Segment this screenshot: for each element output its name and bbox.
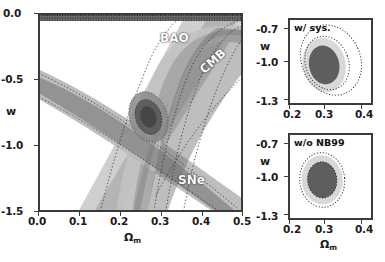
inset-bottom-ytickmark-1	[284, 176, 288, 177]
main-xtickmark-0	[38, 212, 39, 216]
annotation-bao: BAO	[160, 31, 189, 45]
inset-bottom-ytick-2: -1.3	[256, 210, 278, 222]
main-xtick-4: 0.4	[192, 215, 210, 227]
main-ytickmark-2	[34, 145, 38, 146]
annotation-sne: SNe	[178, 173, 205, 187]
main-xtickmark-5	[242, 212, 243, 216]
main-xtick-0: 0.0	[28, 215, 46, 227]
main-xtick-3: 0.3	[151, 215, 169, 227]
inset-with-systematics: w/ sys.	[288, 18, 373, 105]
main-omega-w-panel: BAO CMB SNe	[38, 13, 243, 212]
main-xtickmark-2	[120, 212, 121, 216]
inset-top-tag: w/ sys.	[294, 22, 331, 33]
inset-top-ytick-0: -0.7	[256, 23, 278, 35]
inset-top-ylabel: w	[260, 40, 270, 53]
main-xlabel-symbol: Ω	[124, 231, 133, 244]
inset-bottom-xtick-1: 0.3	[315, 223, 333, 235]
main-ytick-0: 0.0	[3, 7, 21, 19]
main-ytick-3: -1.5	[1, 205, 23, 217]
inset-top-ytickmark-0	[284, 28, 288, 29]
inset-bottom-tag: w/o NB99	[294, 137, 345, 148]
main-ylabel: w	[6, 105, 16, 118]
inset-bottom-xtickmark-0	[289, 220, 290, 224]
inset-top-ytickmark-2	[284, 99, 288, 100]
inset-bottom-ytick-1: -1.0	[256, 171, 278, 183]
inset-top-xtick-2: 0.4	[355, 108, 373, 120]
inset-bottom-xtickmark-2	[361, 220, 362, 224]
inset-top-xtick-0: 0.2	[283, 108, 301, 120]
main-xtickmark-1	[79, 212, 80, 216]
main-xtick-1: 0.1	[69, 215, 87, 227]
inset-top-xtickmark-0	[289, 105, 290, 109]
inset-top-xtickmark-1	[324, 105, 325, 109]
inset-top-ytick-2: -1.3	[256, 95, 278, 107]
inset-top-xtickmark-2	[361, 105, 362, 109]
inset-top-ytick-1: -1.0	[256, 56, 278, 68]
inset-bottom-xlabel-subscript: m	[329, 243, 337, 252]
main-ytick-2: -1.0	[1, 139, 23, 151]
main-panel-contours	[39, 14, 242, 211]
inset-bottom-xtickmark-1	[324, 220, 325, 224]
main-xlabel: Ωm	[124, 231, 141, 245]
inset-bottom-ytick-0: -0.7	[256, 138, 278, 150]
main-xtick-2: 0.2	[110, 215, 128, 227]
main-ytick-1: -0.5	[1, 73, 23, 85]
inset-bottom-xtick-2: 0.4	[355, 223, 373, 235]
inset-top-xtick-1: 0.3	[315, 108, 333, 120]
inset-bottom-ylabel: w	[260, 155, 270, 168]
main-xtick-5: 0.5	[233, 215, 251, 227]
main-xtickmark-4	[202, 212, 203, 216]
inset-bottom-ytickmark-2	[284, 214, 288, 215]
main-ytickmark-0	[34, 13, 38, 14]
main-xlabel-subscript: m	[133, 236, 141, 245]
inset-bottom-xtick-0: 0.2	[283, 223, 301, 235]
inset-bottom-xlabel-symbol: Ω	[320, 238, 329, 251]
figure-root: BAO CMB SNe 0.0 -0.5 -1.0 -1.5 0.0 0.1 0…	[0, 0, 385, 262]
inset-without-nb99: w/o NB99	[288, 133, 373, 220]
inset-bottom-ytickmark-0	[284, 143, 288, 144]
main-ytickmark-1	[34, 79, 38, 80]
inset-top-ytickmark-1	[284, 61, 288, 62]
inset-bottom-xlabel: Ωm	[320, 238, 337, 252]
main-xtickmark-3	[161, 212, 162, 216]
